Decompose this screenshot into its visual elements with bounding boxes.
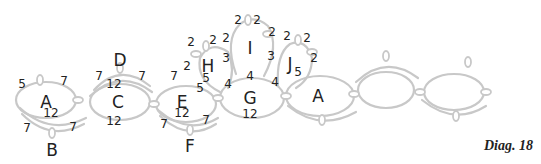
stitch-count: 7: [170, 69, 178, 83]
stitch-count: 2: [234, 13, 242, 27]
stitch-count: 5: [18, 77, 26, 91]
stitch-count: 7: [138, 69, 146, 83]
stitch-count: 12: [43, 106, 58, 120]
stitch-count: 7: [95, 69, 103, 83]
stitch-count: 7: [202, 113, 210, 127]
stitch-count: 4: [246, 69, 254, 83]
stitch-count: 12: [106, 114, 121, 128]
stitch-count: 5: [202, 71, 210, 85]
ring-repeat1-outline: [358, 72, 414, 108]
stitch-count: 2: [268, 25, 276, 39]
ring-label-j: J: [286, 54, 292, 74]
stitch-count: 2: [209, 33, 217, 47]
stitch-count: 12: [106, 77, 121, 91]
stitch-count: 2: [187, 35, 195, 49]
stitch-count: 7: [160, 117, 168, 131]
ring-label-g: G: [243, 88, 256, 108]
ring-repeat2-outline: [424, 74, 484, 110]
stitch-count: 2: [283, 29, 291, 43]
stitch-count: 7: [60, 74, 68, 88]
diagram-caption: Diag. 18: [484, 138, 533, 154]
ring-label-a2: A: [312, 86, 324, 106]
chain-label-d: D: [113, 50, 126, 70]
stitch-count: 2: [310, 51, 318, 65]
stitch-count: 2: [253, 13, 261, 27]
ring-label-c: C: [112, 92, 124, 112]
stitch-count: 2: [303, 31, 311, 45]
stitch-count: 7: [23, 121, 31, 135]
stitch-count: 3: [222, 51, 230, 65]
stitch-count: 4: [224, 77, 232, 91]
stitch-count: 12: [242, 107, 257, 121]
stitch-count: 4: [271, 75, 279, 89]
stitch-count: 2: [183, 59, 191, 73]
chain-label-f: F: [185, 136, 195, 156]
stitch-count: 5: [294, 65, 302, 79]
tatting-diagram: A C E G H I J A B D F 571277712712751277…: [0, 0, 541, 164]
chain-label-b: B: [46, 140, 58, 160]
ring-label-i: I: [247, 38, 252, 58]
stitch-count: 12: [174, 106, 189, 120]
stitch-count: 3: [267, 49, 275, 63]
stitch-count: 7: [69, 120, 77, 134]
stitch-count: 2: [222, 31, 230, 45]
